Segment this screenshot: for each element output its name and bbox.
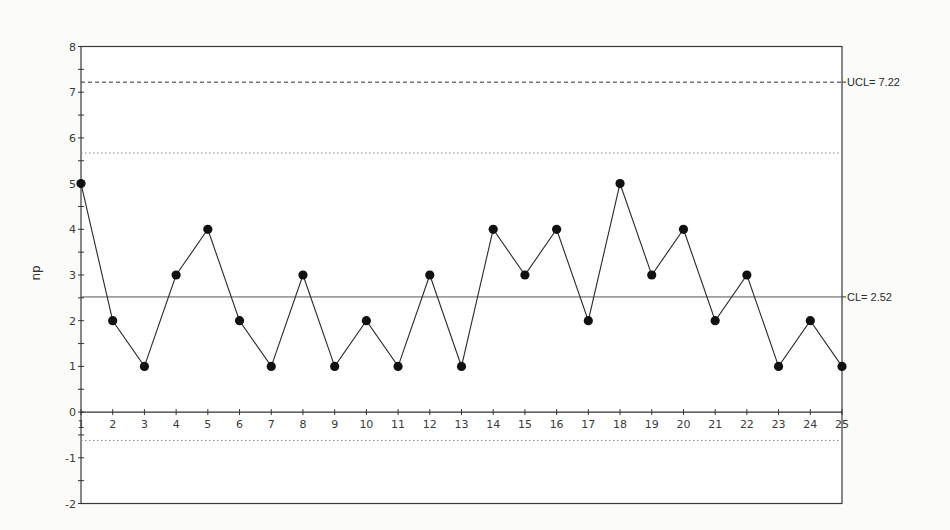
data-point [679,225,688,234]
y-tick-label: 7 [69,86,76,99]
data-point [108,316,117,325]
y-tick-label: 8 [69,41,76,54]
y-axis-title: np [29,265,43,280]
x-tick-label: 11 [391,418,405,431]
data-point [615,179,624,188]
data-point [520,270,529,279]
x-tick-label: 12 [423,418,437,431]
x-tick-label: 14 [486,418,500,431]
data-point [711,316,720,325]
x-tick-label: 22 [740,418,754,431]
x-tick-label: 17 [581,418,595,431]
x-tick-label: 10 [359,418,373,431]
x-tick-label: 23 [772,418,786,431]
y-tick-label: -2 [65,498,76,511]
plot-frame [81,47,842,504]
data-point [774,362,783,371]
data-point [742,270,751,279]
np-control-chart: UCL= 7.22CL= 2.52 -2-1012345678 12345678… [0,0,950,530]
x-tick-label: 2 [109,418,116,431]
data-point [552,225,561,234]
x-tick-label: 25 [835,418,849,431]
y-tick-label: 0 [69,406,76,419]
data-point [393,362,402,371]
data-point [172,270,181,279]
data-point [330,362,339,371]
x-tick-label: 7 [268,418,275,431]
x-tick-label: 4 [173,418,180,431]
data-point [76,179,85,188]
x-tick-label: 6 [236,418,243,431]
data-point [235,316,244,325]
x-tick-label: 1 [78,418,85,431]
data-point [203,225,212,234]
x-tick-label: 3 [141,418,148,431]
data-point [425,270,434,279]
cl-label: CL= 2.52 [847,291,892,303]
x-tick-label: 5 [204,418,211,431]
x-tick-label: 24 [803,418,817,431]
y-tick-label: 3 [69,269,76,282]
y-tick-label: 6 [69,132,76,145]
x-tick-label: 21 [708,418,722,431]
x-tick-label: 8 [299,418,306,431]
x-tick-label: 9 [331,418,338,431]
y-tick-label: 5 [69,178,76,191]
y-tick-label: 4 [69,223,76,236]
x-tick-label: 18 [613,418,627,431]
data-point [362,316,371,325]
data-point [298,270,307,279]
data-point [806,316,815,325]
ucl-label: UCL= 7.22 [847,76,900,88]
data-point [837,362,846,371]
x-tick-label: 20 [676,418,690,431]
data-point [489,225,498,234]
x-tick-label: 13 [455,418,469,431]
y-tick-label: 2 [69,315,76,328]
y-tick-label: 1 [69,360,76,373]
plot-area [81,47,842,504]
x-tick-label: 16 [550,418,564,431]
x-tick-label: 15 [518,418,532,431]
y-tick-label: -1 [65,452,76,465]
x-tick-label: 19 [645,418,659,431]
data-point [584,316,593,325]
data-point [267,362,276,371]
data-point [647,270,656,279]
data-point [457,362,466,371]
data-point [140,362,149,371]
